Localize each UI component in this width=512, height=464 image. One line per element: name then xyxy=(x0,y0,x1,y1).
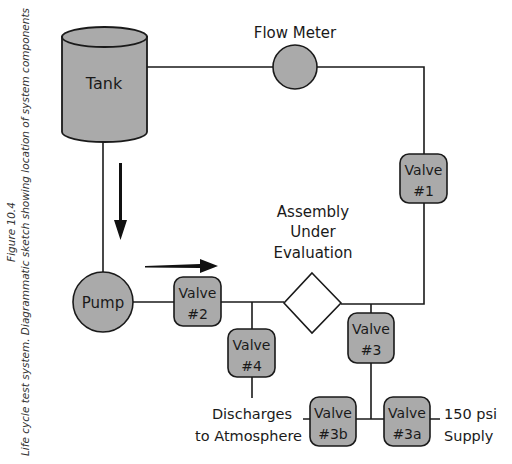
assembly-label-2: Under xyxy=(290,223,336,241)
valve-2: Valve #2 xyxy=(174,277,221,326)
flow-meter-label: Flow Meter xyxy=(254,24,337,42)
svg-text:#3: #3 xyxy=(361,342,382,358)
svg-text:#2: #2 xyxy=(187,306,208,322)
assembly-label-1: Assembly xyxy=(277,203,349,221)
svg-text:Valve: Valve xyxy=(352,321,390,337)
svg-text:to Atmosphere: to Atmosphere xyxy=(195,428,302,444)
svg-text:Valve: Valve xyxy=(388,405,426,421)
svg-text:#4: #4 xyxy=(241,358,262,374)
assembly-label-3: Evaluation xyxy=(273,244,352,262)
valve-1: Valve #1 xyxy=(400,154,447,203)
supply-label: 150 psi Supply xyxy=(444,406,497,444)
svg-text:150 psi: 150 psi xyxy=(444,406,497,422)
svg-text:Supply: Supply xyxy=(444,428,494,444)
svg-text:Valve: Valve xyxy=(314,405,352,421)
svg-text:Valve: Valve xyxy=(179,285,217,301)
valve-3: Valve #3 xyxy=(348,313,394,363)
svg-text:Valve: Valve xyxy=(405,162,443,178)
discharge-label: Discharges to Atmosphere xyxy=(195,406,302,444)
tank: Tank xyxy=(62,27,147,142)
assembly-under-evaluation: Assembly Under Evaluation xyxy=(273,203,352,333)
down-arrow-icon xyxy=(114,163,127,240)
valve-4: Valve #4 xyxy=(228,329,275,377)
svg-text:#1: #1 xyxy=(413,183,434,199)
system-diagram: Tank Flow Meter Pump Assembly Under Eval… xyxy=(0,0,512,464)
flow-meter: Flow Meter xyxy=(254,24,337,89)
tank-label: Tank xyxy=(85,74,123,93)
right-arrow-icon xyxy=(145,259,218,273)
pump-label: Pump xyxy=(82,294,124,312)
svg-text:Discharges: Discharges xyxy=(212,406,292,422)
svg-text:#3a: #3a xyxy=(392,426,421,442)
svg-text:#3b: #3b xyxy=(318,426,348,442)
valve-3a: Valve #3a xyxy=(384,397,430,446)
pump: Pump xyxy=(73,272,133,332)
svg-text:Valve: Valve xyxy=(233,337,271,353)
valve-3b: Valve #3b xyxy=(310,397,356,446)
